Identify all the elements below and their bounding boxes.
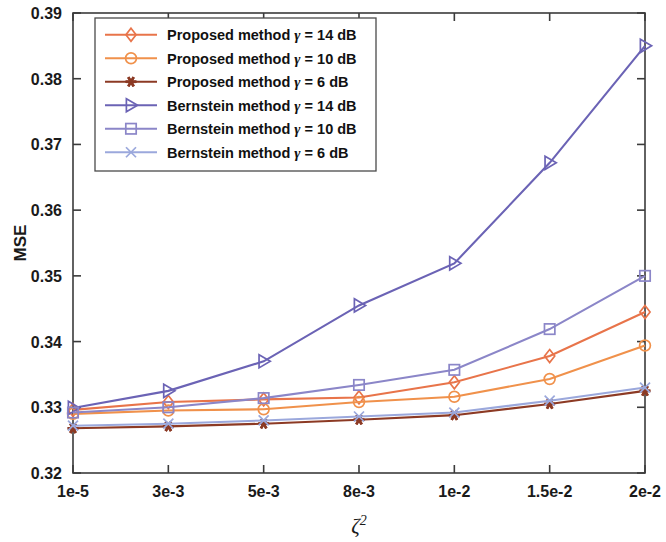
x-tick-label: 1.5e-2 xyxy=(527,483,572,500)
x-tick-label: 2e-2 xyxy=(629,483,661,500)
x-tick-label: 8e-3 xyxy=(343,483,375,500)
legend-label: Bernstein method γ = 14 dB xyxy=(167,98,357,114)
legend-label: Proposed method γ = 10 dB xyxy=(167,51,357,67)
y-tick-label: 0.32 xyxy=(31,465,62,482)
mse-vs-zeta-squared-line-chart: 1e-53e-35e-38e-31e-21.5e-22e-2 0.320.330… xyxy=(0,0,666,542)
x-tick-label: 1e-5 xyxy=(57,483,89,500)
x-tick-label: 5e-3 xyxy=(248,483,280,500)
y-tick-label: 0.39 xyxy=(31,5,62,22)
x-tick-label: 1e-2 xyxy=(438,483,470,500)
y-tick-label: 0.34 xyxy=(31,334,62,351)
y-tick-label: 0.38 xyxy=(31,71,62,88)
legend-label: Proposed method γ = 14 dB xyxy=(167,27,357,43)
legend-label: Bernstein method γ = 10 dB xyxy=(167,121,357,137)
y-axis-title: MSE xyxy=(11,225,30,262)
x-tick-label: 3e-3 xyxy=(152,483,184,500)
y-tick-label: 0.37 xyxy=(31,136,62,153)
chart-figure: 1e-53e-35e-38e-31e-21.5e-22e-2 0.320.330… xyxy=(0,0,666,542)
y-tick-label: 0.35 xyxy=(31,268,62,285)
chart-legend: Proposed method γ = 14 dBProposed method… xyxy=(95,18,376,171)
legend-label: Proposed method γ = 6 dB xyxy=(167,74,349,90)
y-tick-label: 0.33 xyxy=(31,399,62,416)
y-tick-label: 0.36 xyxy=(31,202,62,219)
legend-label: Bernstein method γ = 6 dB xyxy=(167,145,349,161)
